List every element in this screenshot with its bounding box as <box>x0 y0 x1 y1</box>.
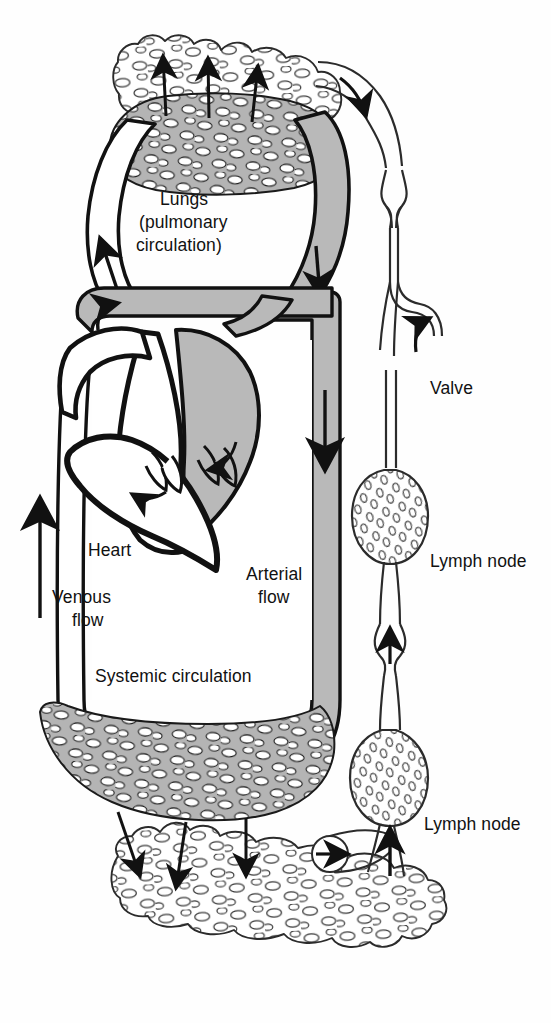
systemic-capillary-bed <box>40 703 334 821</box>
label-lymph-node-lower: Lymph node <box>424 814 521 834</box>
aortic-arch <box>77 288 332 332</box>
label-lungs: Lungs (pulmonary circulation) <box>136 189 228 255</box>
label-arterial-line1: Arterial <box>246 564 302 584</box>
label-heart: Heart <box>88 540 131 560</box>
lung-capillary-bed <box>110 93 338 194</box>
peripheral-lymphatic-tissue <box>111 823 446 947</box>
label-lungs-line1: Lungs <box>160 189 208 209</box>
label-lymph-node-upper: Lymph node <box>430 551 527 571</box>
circulatory-lymphatic-diagram: Lungs (pulmonary circulation) Heart Veno… <box>0 0 551 1023</box>
diagram-canvas: Lungs (pulmonary circulation) Heart Veno… <box>0 0 551 1023</box>
label-venous-line2: flow <box>72 610 104 630</box>
label-lungs-line3: circulation) <box>136 235 222 255</box>
label-valve: Valve <box>430 378 473 398</box>
label-venous-line1: Venous <box>52 587 111 607</box>
label-systemic-circulation: Systemic circulation <box>95 666 252 686</box>
label-lungs-line2: (pulmonary <box>139 212 228 232</box>
label-arterial-line2: flow <box>258 587 290 607</box>
